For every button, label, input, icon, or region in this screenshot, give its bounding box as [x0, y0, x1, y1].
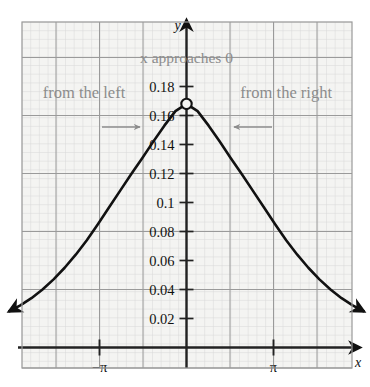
- annotation-from-the-right: from the right: [240, 83, 332, 102]
- y-tick-label: 0.14: [149, 137, 175, 153]
- y-axis-label: y: [172, 18, 181, 33]
- x-tick-label: −π: [92, 359, 108, 375]
- x-axis-label: x: [354, 355, 362, 370]
- annotation-from-the-left: from the left: [43, 83, 126, 102]
- y-tick-label: 0.1: [156, 195, 174, 211]
- x-tick-label: π: [270, 359, 278, 375]
- y-tick-label: 0.08: [149, 224, 174, 240]
- chart-canvas: 0.020.040.060.080.10.120.140.160.18−ππxy…: [0, 0, 370, 387]
- y-tick-label: 0.18: [149, 79, 174, 95]
- y-tick-label: 0.12: [149, 166, 174, 182]
- annotation-x-approaches-zero: x approaches 0: [140, 49, 233, 66]
- y-tick-label: 0.02: [149, 311, 174, 327]
- open-circle-hole-marker: [181, 99, 191, 109]
- y-tick-label: 0.06: [149, 253, 174, 269]
- y-tick-label: 0.04: [149, 282, 175, 298]
- chart-figure: 0.020.040.060.080.10.120.140.160.18−ππxy…: [0, 0, 370, 387]
